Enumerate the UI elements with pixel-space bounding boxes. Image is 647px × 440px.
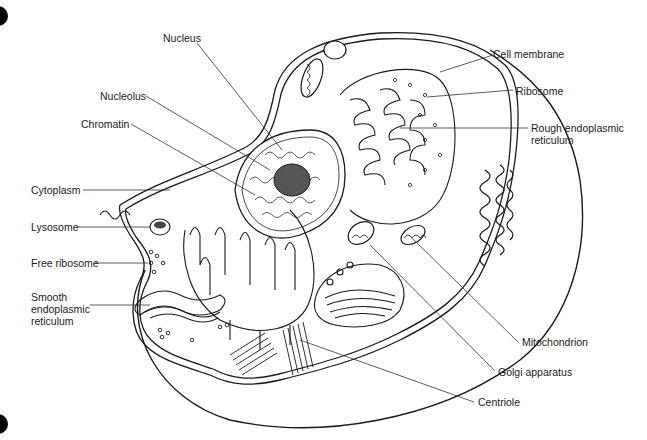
- label-cell-membrane: Cell membrane: [493, 48, 564, 60]
- lysosome: [150, 219, 170, 235]
- label-free-ribosome: Free ribosome: [31, 257, 99, 269]
- binder-hole-bottom: [0, 414, 8, 434]
- label-smooth-er-line2: endoplasmic: [31, 303, 90, 315]
- label-nucleolus: Nucleolus: [100, 90, 146, 102]
- binder-hole-top: [0, 6, 8, 26]
- label-ribosome: Ribosome: [516, 85, 563, 97]
- label-cytoplasm: Cytoplasm: [31, 184, 81, 196]
- label-smooth-er: Smooth endoplasmic reticulum: [31, 291, 90, 327]
- label-chromatin: Chromatin: [81, 118, 129, 130]
- label-smooth-er-line1: Smooth: [31, 291, 90, 303]
- label-nucleus: Nucleus: [163, 32, 201, 44]
- label-rough-er-line2: reticulum: [531, 134, 624, 146]
- label-centriole: Centriole: [478, 396, 520, 408]
- label-mitochondrion: Mitochondrion: [522, 336, 588, 348]
- rough-er: [340, 69, 455, 224]
- label-rough-er: Rough endoplasmic reticulum: [531, 122, 624, 146]
- label-lysosome: Lysosome: [31, 221, 78, 233]
- smooth-er: [135, 291, 225, 322]
- ribosomes-on-rough-er: [393, 78, 441, 186]
- label-smooth-er-line3: reticulum: [31, 315, 90, 327]
- nucleolus: [274, 164, 310, 196]
- golgi-apparatus: [314, 262, 404, 327]
- nucleus: [235, 130, 345, 238]
- label-golgi: Golgi apparatus: [498, 366, 572, 378]
- label-rough-er-line1: Rough endoplasmic: [531, 122, 624, 134]
